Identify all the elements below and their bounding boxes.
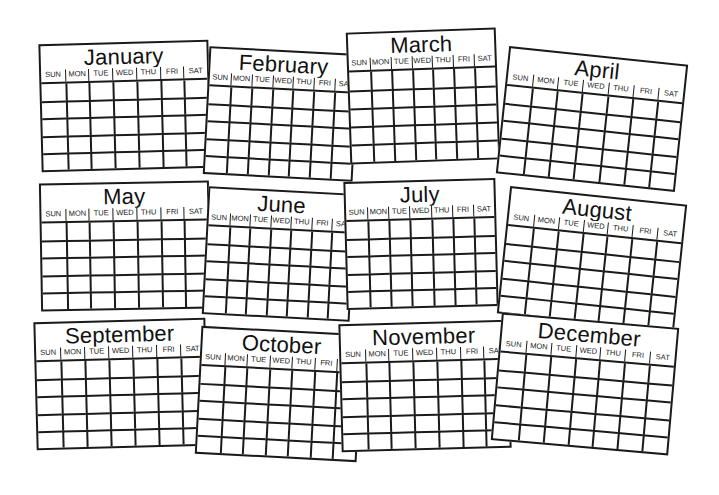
day-cell [438, 430, 462, 448]
day-cell [368, 238, 390, 256]
weekday-label-thu: THU [607, 223, 633, 238]
day-cell [475, 287, 497, 305]
day-cell [371, 89, 392, 108]
day-cell [113, 222, 137, 240]
day-cell [110, 411, 134, 429]
weekday-label-sun: SUN [41, 209, 65, 221]
day-cell [229, 87, 251, 105]
day-cell [548, 357, 574, 376]
day-cell [114, 291, 138, 309]
day-cell [393, 142, 414, 161]
day-cell [208, 86, 230, 104]
weekday-label-tue: TUE [550, 343, 576, 357]
weekday-label-tue: TUE [558, 217, 584, 232]
day-cell [200, 383, 223, 401]
day-cell [391, 70, 412, 89]
day-cell [244, 403, 267, 421]
weekday-label-fri: FRI [314, 78, 335, 91]
day-cell [518, 423, 544, 442]
day-cell [312, 109, 334, 127]
day-cell [368, 255, 390, 273]
day-cell [249, 228, 270, 246]
day-cell [225, 279, 246, 297]
day-cell [113, 99, 137, 117]
day-cell [390, 397, 414, 415]
day-cell [455, 122, 476, 141]
weekday-label-thu: THU [436, 347, 460, 360]
weekday-label-sun: SUN [341, 350, 365, 363]
day-cell [289, 142, 311, 160]
weekday-label-fri: FRI [624, 349, 650, 363]
day-cell [224, 296, 245, 314]
day-cell [245, 385, 268, 403]
day-cell [113, 256, 137, 274]
day-cell [372, 125, 393, 144]
day-cell [372, 143, 393, 162]
day-cell [271, 89, 293, 107]
day-cell [475, 103, 496, 122]
day-cell [66, 240, 90, 258]
day-cell [438, 413, 462, 431]
day-cell [89, 82, 113, 100]
day-cell [414, 124, 435, 143]
day-cell [346, 221, 368, 239]
day-cell [269, 229, 290, 247]
day-cell [36, 362, 60, 380]
day-cell [84, 360, 108, 378]
day-cell [343, 432, 367, 450]
day-cell [497, 370, 523, 389]
weekday-label-sun: SUN [349, 58, 370, 71]
weekday-label-mon: MON [533, 215, 559, 230]
day-cell [370, 71, 391, 90]
day-cell [573, 359, 599, 378]
day-cell [460, 360, 484, 378]
weekday-label-thu: THU [607, 83, 633, 98]
day-cell [432, 254, 454, 272]
day-cell [290, 231, 311, 249]
day-cell [621, 380, 647, 399]
day-cell [598, 361, 624, 380]
day-cell [250, 88, 272, 106]
day-cell [476, 121, 497, 140]
day-cell [343, 415, 367, 433]
day-cell [161, 255, 185, 273]
day-grid [205, 86, 355, 180]
day-cell [647, 366, 673, 385]
day-cell [265, 298, 286, 316]
day-cell [644, 400, 670, 419]
weekday-label-sat: SAT [183, 66, 207, 79]
day-cell [219, 436, 242, 454]
day-cell [41, 84, 65, 102]
day-cell [42, 240, 66, 258]
day-cell [138, 133, 162, 151]
calendar-card-april: AprilSUNMONTUEWEDTHUFRISAT [496, 46, 688, 192]
weekday-label-tue: TUE [247, 354, 270, 367]
day-cell [223, 367, 246, 385]
calendar-card-march: MarchSUNMONTUEWEDTHUFRISAT [346, 27, 501, 164]
weekday-label-tue: TUE [251, 74, 272, 87]
day-cell [473, 218, 495, 236]
day-cell [109, 394, 133, 412]
day-cell [222, 384, 245, 402]
day-cell [248, 123, 270, 141]
day-cell [620, 398, 646, 417]
day-cell [113, 116, 137, 134]
weekday-label-wed: WED [582, 220, 608, 235]
day-cell [460, 378, 484, 396]
day-cell [247, 157, 269, 175]
weekday-label-sun: SUN [507, 72, 533, 87]
weekday-label-thu: THU [136, 67, 160, 80]
day-cell [593, 413, 619, 432]
day-cell [43, 135, 67, 153]
day-cell [288, 159, 310, 177]
day-cell [205, 278, 226, 296]
day-cell [414, 142, 435, 161]
day-cell [42, 223, 66, 241]
day-cell [62, 413, 86, 431]
day-cell [291, 371, 314, 389]
day-cell [366, 397, 390, 415]
day-grid [341, 360, 509, 450]
day-cell [547, 374, 573, 393]
weekday-label-sat: SAT [474, 53, 495, 66]
day-cell [524, 355, 550, 374]
